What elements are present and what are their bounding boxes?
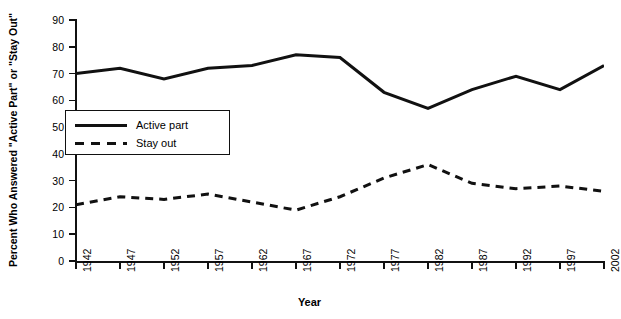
x-axis-tick-mark xyxy=(75,262,77,269)
x-axis-tick-mark xyxy=(383,262,385,269)
x-axis-tick-label: 1977 xyxy=(389,249,401,272)
x-axis-tick-mark xyxy=(251,262,253,269)
x-axis-tick-mark xyxy=(119,262,121,269)
y-axis-tick-label: 40 xyxy=(38,149,64,159)
y-axis-tick-label: 10 xyxy=(38,229,64,239)
x-axis-tick-label: 1997 xyxy=(565,249,577,272)
x-axis-tick-mark xyxy=(471,262,473,269)
y-axis-tick-label: 90 xyxy=(38,15,64,25)
legend-item-active-part: Active part xyxy=(66,116,231,134)
y-axis-tick-label: 30 xyxy=(38,176,64,186)
x-axis-tick-label: 2002 xyxy=(609,249,621,272)
x-axis-tick-label: 1952 xyxy=(169,249,181,272)
y-axis-title: Percent Who Answered "Active Part" or "S… xyxy=(7,13,19,267)
y-axis-tick-label: 70 xyxy=(38,69,64,79)
legend: Active part Stay out xyxy=(65,110,230,155)
legend-swatch-dashed-icon xyxy=(75,137,127,149)
legend-item-stay-out: Stay out xyxy=(66,134,231,152)
x-axis-tick-mark xyxy=(163,262,165,269)
y-axis-tick-label: 0 xyxy=(38,256,64,266)
x-axis-tick-label: 1987 xyxy=(477,249,489,272)
y-axis-tick-label: 60 xyxy=(38,95,64,105)
series-line-stay-out xyxy=(76,165,604,211)
series-line-active-part xyxy=(76,55,604,109)
legend-label: Active part xyxy=(136,119,188,131)
x-axis-title: Year xyxy=(0,296,619,308)
y-axis-tick-label: 20 xyxy=(38,202,64,212)
x-axis-tick-label: 1947 xyxy=(125,249,137,272)
y-axis-tick-label: 50 xyxy=(38,122,64,132)
y-axis-tick-label: 80 xyxy=(38,42,64,52)
x-axis-tick-mark xyxy=(603,262,605,269)
x-axis-tick-label: 1982 xyxy=(433,249,445,272)
x-axis-tick-label: 1967 xyxy=(301,249,313,272)
x-axis-tick-label: 1957 xyxy=(213,249,225,272)
x-axis-tick-mark xyxy=(559,262,561,269)
legend-swatch-solid-icon xyxy=(75,119,127,131)
x-axis-tick-label: 1992 xyxy=(521,249,533,272)
x-axis-tick-label: 1972 xyxy=(345,249,357,272)
x-axis-tick-label: 1962 xyxy=(257,249,269,272)
x-axis-tick-mark xyxy=(207,262,209,269)
x-axis-tick-mark xyxy=(427,262,429,269)
x-axis-tick-mark xyxy=(295,262,297,269)
y-axis-title-container: Percent Who Answered "Active Part" or "S… xyxy=(0,0,26,280)
x-axis-tick-label: 1942 xyxy=(81,249,93,272)
legend-label: Stay out xyxy=(136,137,176,149)
x-axis-tick-mark xyxy=(339,262,341,269)
x-axis-tick-mark xyxy=(515,262,517,269)
